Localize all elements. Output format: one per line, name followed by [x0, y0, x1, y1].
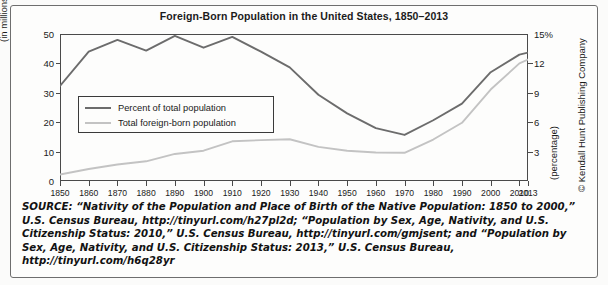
- x-tick-label: 1930: [280, 188, 299, 198]
- y-right-tick-mark: [528, 122, 533, 123]
- x-tick-label: 1980: [424, 188, 443, 198]
- source-text: “Nativity of the Population and Place of…: [22, 201, 575, 266]
- y-left-tick-mark: [56, 152, 61, 153]
- y-right-tick-label: 12: [534, 58, 545, 69]
- y-axis-right-label: (percentage): [548, 50, 559, 180]
- figure-container: Foreign-Born Population in the United St…: [0, 0, 608, 285]
- y-right-tick-mark: [528, 93, 533, 94]
- x-tick-mark: [462, 181, 463, 186]
- x-tick-mark: [146, 181, 147, 186]
- y-left-tick-mark: [56, 122, 61, 123]
- copyright-notice: © Kendall Hunt Publishing Company: [576, 12, 587, 192]
- x-tick-mark: [347, 181, 348, 186]
- y-left-tick-label: 50: [43, 29, 54, 40]
- y-right-tick-mark: [528, 152, 533, 153]
- legend-label-percent: Percent of total population: [118, 103, 226, 113]
- y-axis-left-label: (in millions): [0, 0, 9, 78]
- x-tick-mark: [519, 181, 520, 186]
- x-tick-mark: [376, 181, 377, 186]
- x-tick-label: 1890: [165, 188, 184, 198]
- y-left-tick-label: 0: [49, 176, 54, 187]
- x-tick-mark: [318, 181, 319, 186]
- x-tick-mark: [433, 181, 434, 186]
- x-tick-label: 1990: [452, 188, 471, 198]
- x-tick-label: 1910: [223, 188, 242, 198]
- legend-label-total: Total foreign-born population: [118, 118, 236, 128]
- y-left-tick-mark: [56, 63, 61, 64]
- x-tick-mark: [89, 181, 90, 186]
- x-tick-mark: [204, 181, 205, 186]
- y-right-tick-label: 3: [534, 146, 539, 157]
- y-right-tick-label: 6: [534, 117, 539, 128]
- legend-item-percent: Percent of total population: [85, 100, 267, 115]
- y-right-tick-label: 9: [534, 87, 539, 98]
- x-tick-label: 1950: [338, 188, 357, 198]
- x-tick-mark: [528, 181, 529, 186]
- chart-title: Foreign-Born Population in the United St…: [0, 10, 608, 22]
- x-tick-label: 1870: [108, 188, 127, 198]
- x-tick-mark: [261, 181, 262, 186]
- x-tick-mark: [175, 181, 176, 186]
- x-tick-mark: [290, 181, 291, 186]
- legend-swatch-total: [85, 122, 111, 124]
- source-lead: SOURCE:: [22, 201, 73, 212]
- x-tick-label: 1850: [50, 188, 69, 198]
- legend-swatch-percent: [85, 107, 111, 109]
- y-right-tick-label: 15%: [534, 29, 553, 40]
- source-note: SOURCE: “Nativity of the Population and …: [22, 200, 582, 268]
- x-tick-label: 2000: [481, 188, 500, 198]
- x-tick-label: 1900: [194, 188, 213, 198]
- x-tick-label: 1880: [137, 188, 156, 198]
- x-tick-label: 1940: [309, 188, 328, 198]
- legend-item-total: Total foreign-born population: [85, 115, 267, 130]
- y-left-tick-mark: [56, 93, 61, 94]
- x-tick-mark: [60, 181, 61, 186]
- x-tick-mark: [491, 181, 492, 186]
- y-left-tick-label: 10: [43, 146, 54, 157]
- x-tick-label: 1970: [395, 188, 414, 198]
- y-left-tick-label: 30: [43, 87, 54, 98]
- x-tick-mark: [232, 181, 233, 186]
- x-tick-label: 1860: [79, 188, 98, 198]
- y-left-tick-label: 20: [43, 117, 54, 128]
- y-left-tick-label: 40: [43, 58, 54, 69]
- x-tick-mark: [405, 181, 406, 186]
- y-right-tick-mark: [528, 63, 533, 64]
- chart-legend: Percent of total population Total foreig…: [78, 96, 274, 133]
- x-tick-label: 1920: [251, 188, 270, 198]
- x-tick-label: 2013: [518, 188, 537, 198]
- x-tick-mark: [117, 181, 118, 186]
- x-tick-label: 1960: [366, 188, 385, 198]
